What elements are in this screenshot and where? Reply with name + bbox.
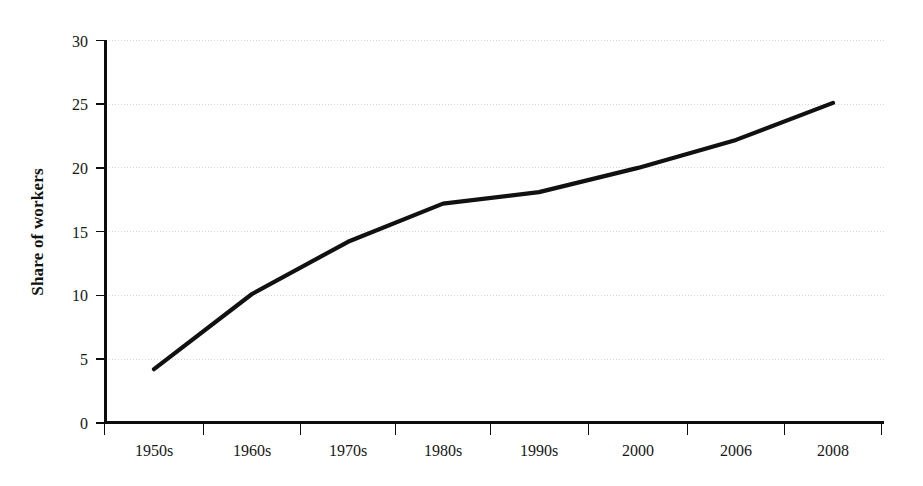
x-tick-label-2008: 2008: [817, 442, 849, 459]
y-tick-label-0: 0: [80, 415, 88, 432]
line-chart: 30 25 20 15 10 5 0 1950s 1960s 1970s 198…: [0, 0, 923, 486]
x-tick-label-1990s: 1990s: [520, 442, 558, 459]
x-tick-label-1950s: 1950s: [135, 442, 173, 459]
x-tick-label-2000: 2000: [622, 442, 654, 459]
y-tick-label-30: 30: [72, 33, 88, 50]
y-tick-label-10: 10: [72, 287, 88, 304]
y-tick-label-20: 20: [72, 160, 88, 177]
y-axis-title: Share of workers: [28, 168, 47, 296]
x-tick-label-1960s: 1960s: [233, 442, 271, 459]
y-tick-label-25: 25: [72, 96, 88, 113]
y-tick-label-15: 15: [72, 224, 88, 241]
chart-background: [0, 0, 923, 486]
x-tick-label-1970s: 1970s: [329, 442, 367, 459]
chart-container: 30 25 20 15 10 5 0 1950s 1960s 1970s 198…: [0, 0, 923, 486]
x-tick-label-2006: 2006: [720, 442, 752, 459]
y-tick-label-5: 5: [80, 351, 88, 368]
x-tick-label-1980s: 1980s: [424, 442, 462, 459]
